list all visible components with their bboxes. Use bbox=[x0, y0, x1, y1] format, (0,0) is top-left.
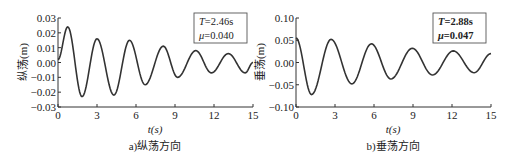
svg-text:3: 3 bbox=[94, 109, 100, 121]
svg-text:−0.03: −0.03 bbox=[31, 101, 57, 113]
svg-text:15: 15 bbox=[248, 109, 260, 121]
figure: −0.03−0.02−0.010.000.010.020.03 03691215… bbox=[0, 0, 515, 157]
svg-text:T=2.88s: T=2.88s bbox=[438, 16, 473, 27]
svg-text:12: 12 bbox=[209, 109, 220, 121]
svg-text:0.00: 0.00 bbox=[37, 57, 57, 69]
y-ticks: −0.10−0.050.000.050.10 bbox=[269, 12, 299, 113]
svg-text:T=2.46s: T=2.46s bbox=[199, 16, 233, 27]
svg-text:0.03: 0.03 bbox=[37, 12, 57, 24]
parameter-annotation-box: T=2.88s μ=0.047 bbox=[433, 13, 486, 43]
svg-text:0.02: 0.02 bbox=[37, 27, 56, 39]
heave-displacement-curve bbox=[296, 38, 491, 95]
x-axis-label: t(s) bbox=[148, 123, 163, 136]
svg-text:0: 0 bbox=[293, 109, 299, 121]
y-ticks: −0.03−0.02−0.010.000.010.020.03 bbox=[31, 12, 61, 113]
svg-text:μ=0.047: μ=0.047 bbox=[437, 30, 473, 41]
svg-text:μ=0.040: μ=0.040 bbox=[198, 30, 234, 41]
svg-text:0.10: 0.10 bbox=[275, 12, 295, 24]
svg-text:12: 12 bbox=[447, 109, 458, 121]
svg-text:0.05: 0.05 bbox=[275, 34, 295, 46]
svg-text:0.01: 0.01 bbox=[37, 42, 56, 54]
svg-text:9: 9 bbox=[172, 109, 178, 121]
svg-text:−0.02: −0.02 bbox=[31, 86, 56, 98]
panel-caption: b)垂荡方向 bbox=[366, 139, 419, 153]
svg-text:3: 3 bbox=[332, 109, 338, 121]
x-axis-label: t(s) bbox=[386, 123, 401, 136]
svg-text:9: 9 bbox=[410, 109, 416, 121]
chart-panel-b-heave: −0.10−0.050.000.050.10 03691215 T=2.88s … bbox=[254, 12, 497, 153]
svg-text:−0.10: −0.10 bbox=[269, 101, 295, 113]
svg-text:−0.05: −0.05 bbox=[269, 79, 295, 91]
parameter-annotation-box: T=2.46s μ=0.040 bbox=[194, 13, 247, 43]
svg-text:6: 6 bbox=[133, 109, 139, 121]
svg-text:15: 15 bbox=[486, 109, 498, 121]
panel-caption: a)纵荡方向 bbox=[129, 139, 182, 153]
svg-text:−0.01: −0.01 bbox=[31, 71, 56, 83]
svg-text:6: 6 bbox=[371, 109, 377, 121]
chart-panel-a-surge: −0.03−0.02−0.010.000.010.020.03 03691215… bbox=[17, 12, 259, 153]
svg-text:0: 0 bbox=[55, 109, 61, 121]
y-axis-label: 纵荡(m) bbox=[17, 43, 30, 81]
y-axis-label: 垂荡(m) bbox=[254, 43, 267, 81]
svg-text:0.00: 0.00 bbox=[275, 57, 295, 69]
